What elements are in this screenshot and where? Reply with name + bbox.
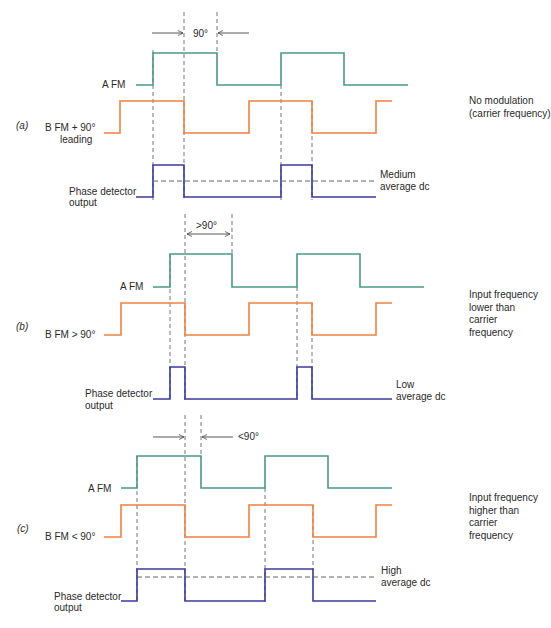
signal-b-waveform [104, 101, 392, 133]
signal-b-label: B FM < 90° [45, 531, 95, 543]
panel-tag: (c) [17, 523, 29, 535]
signal-a-label: A FM [88, 483, 111, 495]
detector-output-waveform [121, 569, 376, 601]
panel-tag: (a) [16, 120, 28, 132]
panel-c [104, 415, 392, 602]
condition-note: No modulation (carrier frequency) [469, 95, 551, 120]
timing-guides [153, 12, 312, 200]
detector-label: Phase detector [85, 388, 152, 400]
timing-guides [137, 415, 313, 602]
signal-b-waveform [104, 505, 392, 537]
panel-a [104, 12, 408, 200]
condition-note: Input frequency lower than carrier frequ… [469, 289, 538, 339]
detector-output-waveform [153, 367, 392, 399]
phase-label: <90° [238, 431, 259, 443]
detector-sublabel: output [54, 602, 82, 614]
signal-b-sublabel: leading [60, 134, 92, 146]
signal-a-waveform [136, 53, 408, 85]
signal-a-label: A FM [120, 281, 143, 293]
condition-note: Input frequency higher than carrier freq… [469, 492, 538, 542]
detector-sublabel: output [85, 400, 113, 412]
average-label: Medium [380, 169, 416, 181]
signal-a-waveform [121, 456, 392, 488]
average-sublabel: average dc [381, 577, 430, 589]
detector-sublabel: output [69, 197, 97, 209]
average-sublabel: average dc [396, 391, 445, 403]
panel-b [104, 214, 424, 400]
average-label: Low [396, 379, 414, 391]
signal-b-label: B FM > 90° [45, 329, 95, 341]
average-label: High [381, 565, 402, 577]
average-sublabel: average dc [380, 181, 429, 193]
panel-tag: (b) [16, 321, 28, 333]
phase-label: >90° [196, 220, 217, 232]
signal-a-waveform [153, 254, 424, 287]
phase-label: 90° [193, 28, 208, 40]
signal-a-label: A FM [102, 79, 125, 91]
timing-guides [170, 214, 312, 400]
signal-b-label: B FM + 90° [45, 122, 95, 134]
signal-b-waveform [104, 303, 392, 335]
